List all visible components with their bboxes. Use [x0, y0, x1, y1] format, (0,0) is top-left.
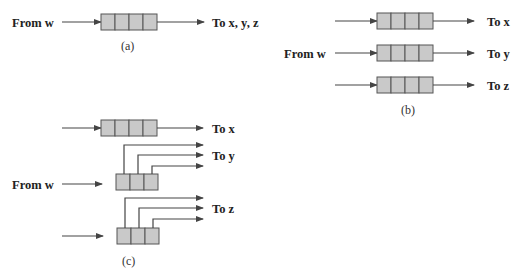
queue-diagrams: From w To x, y, z (a) From w To x — [0, 0, 520, 274]
panel-c-output-x: To x — [212, 122, 236, 136]
panel-b-output-z: To z — [487, 79, 510, 93]
panel-c-fanout-arrow-z1 — [125, 198, 203, 228]
panel-a-caption: (a) — [121, 39, 134, 53]
panel-b-queue-y — [377, 45, 433, 61]
panel-b-input-label: From w — [284, 47, 326, 61]
diagram-canvas: From w To x, y, z (a) From w To x — [0, 0, 520, 274]
panel-c-input-label: From w — [12, 178, 54, 192]
panel-c-queue-top — [101, 120, 157, 136]
panel-b-queue-x — [377, 13, 433, 29]
panel-c-fanout-arrow-y2 — [138, 155, 203, 174]
panel-a-input-label: From w — [12, 16, 54, 30]
panel-b: From w To x To y To z — [284, 13, 511, 117]
panel-c-caption: (c) — [122, 254, 135, 268]
panel-b-queue-z — [377, 77, 433, 93]
panel-c-fanout-arrow-y1 — [124, 145, 203, 174]
panel-c: To x From w To y To z (c) — [12, 120, 236, 268]
panel-a-queue — [101, 14, 157, 30]
panel-c-queue-middle — [116, 174, 158, 190]
panel-c-output-y: To y — [212, 149, 236, 163]
panel-c-fanout-arrow-z3 — [153, 219, 203, 228]
panel-b-caption: (b) — [401, 103, 415, 117]
panel-b-output-x: To x — [487, 15, 511, 29]
panel-c-output-z: To z — [212, 202, 235, 216]
panel-c-fanout-arrow-y3 — [152, 166, 203, 174]
panel-c-fanout-arrow-z2 — [139, 208, 203, 228]
panel-a-output-label: To x, y, z — [212, 16, 259, 30]
panel-c-queue-bottom — [117, 228, 159, 244]
panel-a: From w To x, y, z (a) — [12, 14, 259, 53]
panel-b-output-y: To y — [487, 47, 511, 61]
